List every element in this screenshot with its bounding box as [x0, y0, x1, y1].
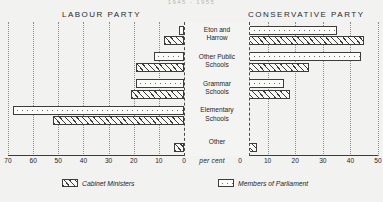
gridline-left-50 [58, 22, 59, 156]
gridline-left-70 [8, 22, 9, 156]
dot-swatch-icon [218, 179, 234, 187]
tick-label-left-70: 70 [4, 157, 11, 164]
category-label-0: Eton andHarrow [185, 26, 249, 43]
gridline-left-40 [83, 22, 84, 156]
tick-label-right-30: 30 [319, 157, 326, 164]
legend-item-members-of-parliament: Members of Parliament [218, 179, 308, 187]
gridline-left-30 [109, 22, 110, 156]
bar-conservative-mp-0 [240, 26, 337, 35]
gridline-right-50 [378, 22, 379, 156]
plot-area: Eton andHarrowOther PublicSchoolsGrammar… [8, 22, 378, 156]
chart-legend: Cabinet Ministers Members of Parliament [0, 179, 383, 197]
legend-item-cabinet-ministers: Cabinet Ministers [62, 179, 135, 187]
tick-label-left-40: 40 [80, 157, 87, 164]
category-label-3: ElementarySchools [185, 106, 249, 123]
bar-labour-mp-2 [136, 79, 184, 88]
tick-label-right-10: 10 [264, 157, 271, 164]
legend-label-cabinet-ministers: Cabinet Ministers [82, 180, 135, 187]
axis-unit-label: per cent [199, 157, 224, 164]
party-heading-conservative: CONSERVATIVE PARTY [248, 10, 365, 19]
tick-label-right-50: 50 [374, 157, 381, 164]
tick-label-left-30: 30 [105, 157, 112, 164]
tick-label-left-0: 0 [182, 157, 186, 164]
category-label-4: Other [185, 138, 249, 146]
bar-labour-mp-3 [13, 106, 184, 115]
tick-label-left-10: 10 [155, 157, 162, 164]
legend-label-members-of-parliament: Members of Parliament [238, 180, 308, 187]
chart-title: 1945 - 1955 [0, 0, 383, 5]
bar-labour-cab-1 [136, 63, 184, 72]
category-label-1: Other PublicSchools [185, 53, 249, 70]
tick-label-left-50: 50 [55, 157, 62, 164]
bar-labour-cab-2 [131, 90, 184, 99]
axis-tick-labels: 706050403020100per cent01020304050 [0, 157, 383, 169]
bar-conservative-cab-1 [240, 63, 309, 72]
tick-label-right-20: 20 [292, 157, 299, 164]
hatch-swatch-icon [62, 179, 78, 187]
category-label-column: Eton andHarrowOther PublicSchoolsGrammar… [184, 22, 250, 156]
tick-label-right-0: 0 [238, 157, 242, 164]
chart-root: 1945 - 1955 LABOUR PARTY CONSERVATIVE PA… [0, 0, 383, 202]
tick-label-left-20: 20 [130, 157, 137, 164]
bar-labour-cab-3 [53, 116, 184, 125]
bar-labour-mp-1 [154, 52, 184, 61]
bar-conservative-mp-1 [240, 52, 361, 61]
category-label-2: GrammarSchools [185, 80, 249, 97]
bar-labour-cab-4 [174, 143, 184, 152]
bar-conservative-cab-0 [240, 36, 364, 45]
gridline-left-60 [33, 22, 34, 156]
tick-label-right-40: 40 [347, 157, 354, 164]
party-heading-labour: LABOUR PARTY [62, 10, 141, 19]
tick-label-left-60: 60 [29, 157, 36, 164]
bar-labour-cab-0 [164, 36, 184, 45]
